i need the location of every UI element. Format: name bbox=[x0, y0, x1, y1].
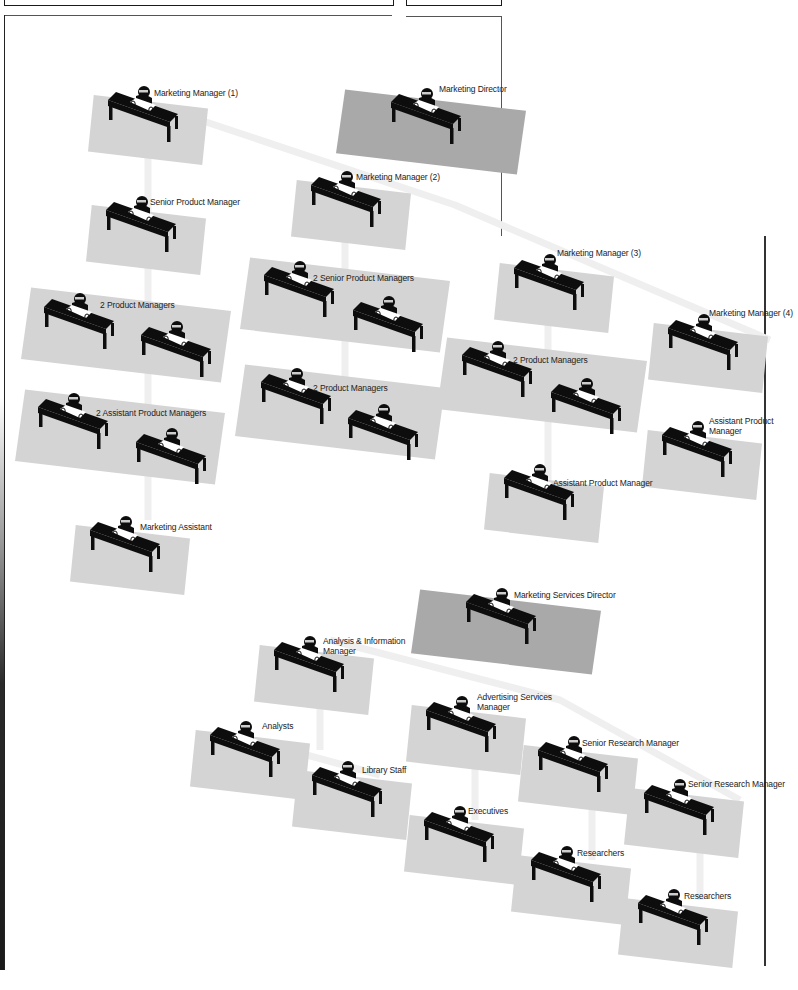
label-an: Analysts bbox=[262, 721, 293, 731]
label-ssp: 2 Senior Product Managers bbox=[313, 273, 414, 283]
label-md: Marketing Director bbox=[439, 84, 507, 94]
label-apm3: Assistant Product Manager bbox=[553, 478, 653, 488]
label-aim: Analysis & Information bbox=[323, 636, 405, 646]
label-asm: Advertising Services bbox=[477, 692, 552, 702]
label-ls: Library Staff bbox=[362, 765, 406, 775]
label-srm2: Senior Research Manager bbox=[688, 779, 785, 789]
label-rs2: Researchers bbox=[684, 891, 731, 901]
label-spm: Senior Product Manager bbox=[150, 197, 240, 207]
label-mm4: Marketing Manager (4) bbox=[709, 308, 793, 318]
label-aimb: Manager bbox=[323, 646, 356, 656]
label-mm3: Marketing Manager (3) bbox=[557, 248, 641, 258]
label-mm1: Marketing Manager (1) bbox=[154, 88, 238, 98]
label-rs1: Researchers bbox=[577, 848, 624, 858]
label-pm-b: 2 Product Managers bbox=[313, 383, 388, 393]
label-apm4: Assistant Product bbox=[709, 416, 773, 426]
label-msd: Marketing Services Director bbox=[514, 590, 616, 600]
label-ma: Marketing Assistant bbox=[140, 522, 212, 532]
label-apm4b: Manager bbox=[709, 426, 742, 436]
label-mm2: Marketing Manager (2) bbox=[356, 172, 440, 182]
label-asmb: Manager bbox=[477, 702, 510, 712]
label-srm1: Senior Research Manager bbox=[582, 738, 679, 748]
label-ex: Executives bbox=[468, 806, 508, 816]
label-pm-a: 2 Product Managers bbox=[100, 300, 175, 310]
label-apm-a: 2 Assistant Product Managers bbox=[96, 408, 206, 418]
label-pm-c: 2 Product Managers bbox=[513, 355, 588, 365]
org-chart-illustration bbox=[0, 0, 798, 990]
